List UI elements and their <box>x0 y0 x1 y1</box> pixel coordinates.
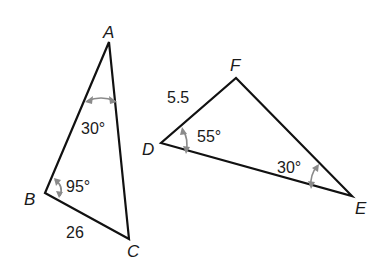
angle-a-marker-icon <box>85 96 117 104</box>
vertex-label-e: E <box>355 199 367 218</box>
vertex-label-a: A <box>102 23 114 42</box>
side-df-length: 5.5 <box>167 89 189 106</box>
geometry-diagram: A B C 30° 95° 26 D E F 55° 30° 5.5 <box>0 0 385 265</box>
side-bc-length: 26 <box>66 224 84 241</box>
angle-b-measure: 95° <box>66 178 90 195</box>
triangle-def: D E F 55° 30° 5.5 <box>142 56 367 218</box>
triangle-abc: A B C 30° 95° 26 <box>24 23 140 261</box>
triangle-abc-edges <box>45 42 129 239</box>
vertex-label-c: C <box>127 242 140 261</box>
angle-b-marker-icon <box>54 178 63 198</box>
vertex-label-d: D <box>142 140 154 159</box>
vertex-label-b: B <box>24 190 35 209</box>
vertex-label-f: F <box>230 56 242 75</box>
angle-e-measure: 30° <box>277 159 301 176</box>
triangle-def-edges <box>161 78 352 196</box>
angle-a-measure: 30° <box>81 120 105 137</box>
angle-d-measure: 55° <box>197 128 221 145</box>
